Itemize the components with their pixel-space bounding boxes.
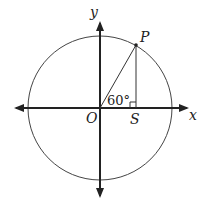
foot-s-label: S xyxy=(130,111,140,127)
point-p-dot xyxy=(134,43,138,47)
x-axis-label: x xyxy=(189,107,197,123)
unit-circle-diagram: y x P O S 60° xyxy=(0,0,206,204)
point-p-label: P xyxy=(139,29,150,45)
angle-label: 60° xyxy=(107,93,130,108)
y-axis-label: y xyxy=(89,4,99,20)
origin-label: O xyxy=(86,110,98,126)
